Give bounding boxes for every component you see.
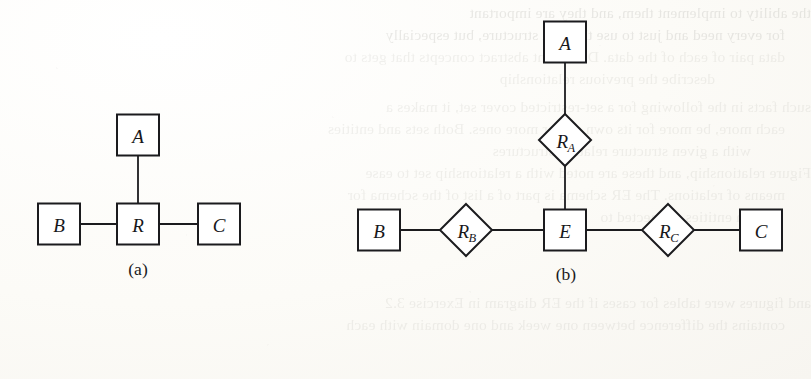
entity-box-c	[198, 204, 240, 245]
entity-box-b	[358, 210, 400, 251]
relationship-box-r	[117, 204, 159, 245]
entity-box-e	[544, 210, 586, 251]
entity-box-b	[38, 204, 80, 245]
diagram-a	[38, 115, 240, 245]
entity-box-a	[117, 115, 159, 156]
diagram-b	[358, 22, 782, 257]
relationship-diamond-ra	[539, 114, 591, 166]
er-diagram-figure: A B R C (a) A RA E B RB RC C (b)	[0, 0, 811, 379]
figure-caption-b: (b)	[556, 264, 576, 285]
entity-box-a	[544, 22, 586, 63]
relationship-diamond-rb	[440, 204, 492, 256]
entity-box-c	[740, 210, 782, 251]
figure-caption-a: (a)	[128, 259, 147, 280]
relationship-diamond-rc	[642, 204, 694, 256]
er-diagram-canvas	[0, 0, 811, 379]
